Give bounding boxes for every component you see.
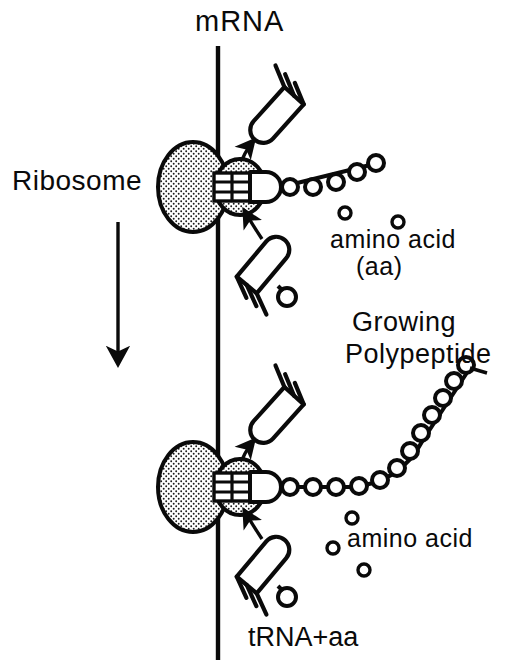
label-mrna: mRNA bbox=[195, 6, 284, 37]
ribosome-complex-upper bbox=[158, 66, 384, 315]
figure-canvas: mRNA Ribosome amino acid (aa) Growing Po… bbox=[0, 0, 528, 670]
growing-polypeptide-lower bbox=[281, 357, 474, 495]
bound-trna-acceptor-lower bbox=[250, 472, 281, 502]
ribosome-complex-lower bbox=[158, 357, 474, 614]
free-amino-acid bbox=[358, 564, 370, 576]
bound-trna-anticodon-lower bbox=[214, 473, 250, 501]
label-growing: Growing bbox=[352, 308, 456, 337]
label-amino-acid-top: amino acid bbox=[330, 226, 456, 253]
label-amino-acid-abbrev: (aa) bbox=[356, 253, 402, 280]
label-polypeptide: Polypeptide bbox=[345, 340, 492, 369]
free-amino-acid bbox=[339, 207, 351, 219]
label-ribosome: Ribosome bbox=[12, 166, 142, 196]
trna-departing-upper bbox=[229, 66, 310, 149]
trna-entry-arrow-lower bbox=[244, 510, 262, 539]
label-amino-acid-bottom: amino acid bbox=[347, 525, 473, 552]
bound-trna-acceptor-upper bbox=[250, 172, 281, 202]
trna-arriving-upper bbox=[230, 231, 310, 314]
trna-departing-lower bbox=[229, 366, 310, 449]
free-amino-acid bbox=[327, 542, 339, 554]
growing-polypeptide-upper bbox=[281, 155, 384, 195]
label-trna-plus-aa: tRNA+aa bbox=[248, 623, 358, 652]
trna-arriving-lower bbox=[230, 531, 310, 614]
bound-trna-anticodon-upper bbox=[214, 173, 250, 201]
trna-entry-arrow-upper bbox=[244, 210, 262, 239]
free-amino-acid bbox=[346, 512, 358, 524]
